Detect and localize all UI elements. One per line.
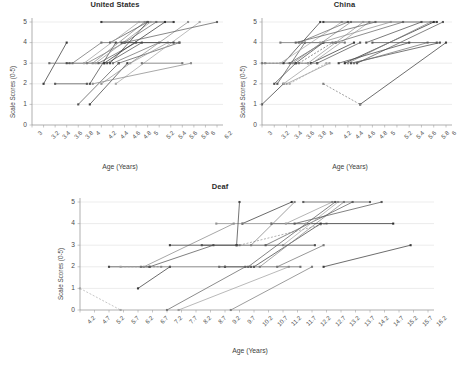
data-point-marker: [338, 62, 340, 64]
y-axis-tick-label: 1: [61, 285, 75, 292]
series-line: [248, 202, 335, 267]
data-point-marker: [181, 62, 183, 64]
series-line: [260, 202, 344, 267]
data-point-marker: [77, 103, 79, 105]
data-point-marker: [301, 42, 303, 44]
data-point-marker: [285, 223, 287, 225]
axes: [78, 198, 435, 313]
data-point-marker: [282, 62, 284, 64]
series-line: [360, 43, 446, 105]
data-point-marker: [147, 21, 149, 23]
y-axis-tick-label: 4: [13, 39, 27, 46]
data-point-marker: [390, 21, 392, 23]
data-point-marker: [292, 62, 294, 64]
data-point-marker: [115, 42, 117, 44]
data-point-marker: [86, 83, 88, 85]
figure-root: United States Scale Scores (0-5) Age (Ye…: [0, 0, 459, 366]
data-point-marker: [137, 287, 139, 289]
data-point-marker: [48, 62, 50, 64]
data-point-marker: [365, 42, 367, 44]
series-line: [93, 63, 191, 84]
data-point-marker: [328, 62, 330, 64]
data-point-marker: [273, 83, 275, 85]
data-point-marker: [215, 223, 217, 225]
panel-deaf: Deaf Scale Scores (0-5) Age (Years) 0123…: [55, 182, 459, 366]
data-point-marker: [89, 83, 91, 85]
data-point-marker: [410, 244, 412, 246]
x-axis-tick-label: 10.7: [275, 314, 288, 327]
data-point-marker: [442, 21, 444, 23]
data-point-marker: [307, 62, 309, 64]
panel-united-states: United States Scale Scores (0-5) Age (Ye…: [0, 0, 230, 182]
data-point-marker: [276, 83, 278, 85]
data-point-marker: [123, 42, 125, 44]
y-axis-tick-label: 0: [61, 307, 75, 314]
data-point-marker: [83, 62, 85, 64]
data-point-marker: [295, 42, 297, 44]
data-point-marker: [164, 21, 166, 23]
y-axis-tick-label: 1: [243, 101, 257, 108]
data-point-marker: [43, 83, 45, 85]
plot-area-deaf: 0123454.24.75.25.76.26.77.27.78.28.79.29…: [80, 202, 428, 310]
x-axis-label-deaf: Age (Years): [135, 347, 365, 354]
data-point-marker: [353, 62, 355, 64]
x-axis-tick-label: 12.2: [318, 314, 331, 327]
y-axis-tick-label: 4: [61, 220, 75, 227]
data-point-marker: [190, 62, 192, 64]
data-point-marker: [115, 83, 117, 85]
y-axis-label-deaf: Scale Scores (0-5): [57, 248, 64, 300]
series-line: [116, 22, 200, 84]
data-point-marker: [323, 244, 325, 246]
data-point-marker: [218, 266, 220, 268]
data-point-marker: [369, 201, 371, 203]
data-point-marker: [323, 266, 325, 268]
series-line: [242, 202, 291, 224]
data-point-marker: [126, 62, 128, 64]
data-point-marker: [402, 21, 404, 23]
data-point-marker: [216, 21, 218, 23]
data-point-marker: [362, 21, 364, 23]
data-point-marker: [374, 21, 376, 23]
data-point-marker: [285, 83, 287, 85]
data-point-marker: [279, 42, 281, 44]
data-point-marker: [92, 62, 94, 64]
y-axis-tick-label: 2: [61, 263, 75, 270]
data-point-marker: [319, 42, 321, 44]
data-point-marker: [199, 21, 201, 23]
data-point-marker: [433, 21, 435, 23]
data-point-marker: [294, 201, 296, 203]
data-point-marker: [319, 21, 321, 23]
data-point-marker: [97, 62, 99, 64]
y-axis-tick-label: 3: [243, 60, 257, 67]
series-line: [299, 43, 333, 64]
data-point-marker: [322, 83, 324, 85]
data-point-marker: [289, 83, 291, 85]
data-point-marker: [144, 21, 146, 23]
y-axis-tick-label: 3: [13, 60, 27, 67]
y-axis-tick-label: 0: [13, 122, 27, 129]
data-point-marker: [169, 244, 171, 246]
data-point-marker: [359, 103, 361, 105]
data-point-marker: [392, 223, 394, 225]
x-axis-tick-label: 15.2: [405, 314, 418, 327]
plot-area-us: 01234533.23.43.63.844.24.44.64.855.25.45…: [32, 22, 217, 125]
data-point-marker: [201, 244, 203, 246]
data-point-marker: [103, 62, 105, 64]
series-line: [339, 43, 410, 64]
series-group: [43, 21, 219, 106]
data-point-marker: [445, 42, 447, 44]
data-point-marker: [305, 223, 307, 225]
data-point-marker: [250, 244, 252, 246]
data-point-marker: [66, 42, 68, 44]
x-axis-label-us: Age (Years): [20, 163, 220, 170]
series-line: [354, 43, 428, 64]
data-point-marker: [356, 62, 358, 64]
data-point-marker: [100, 42, 102, 44]
panel-china: China Scale Scores (0-5) Age (Years) 012…: [230, 0, 459, 182]
data-point-marker: [173, 42, 175, 44]
plot-svg: [32, 22, 231, 131]
series-line: [295, 202, 382, 224]
y-axis-tick-label: 0: [243, 122, 257, 129]
x-axis-tick-label: 15.7: [420, 314, 433, 327]
data-point-marker: [264, 62, 266, 64]
